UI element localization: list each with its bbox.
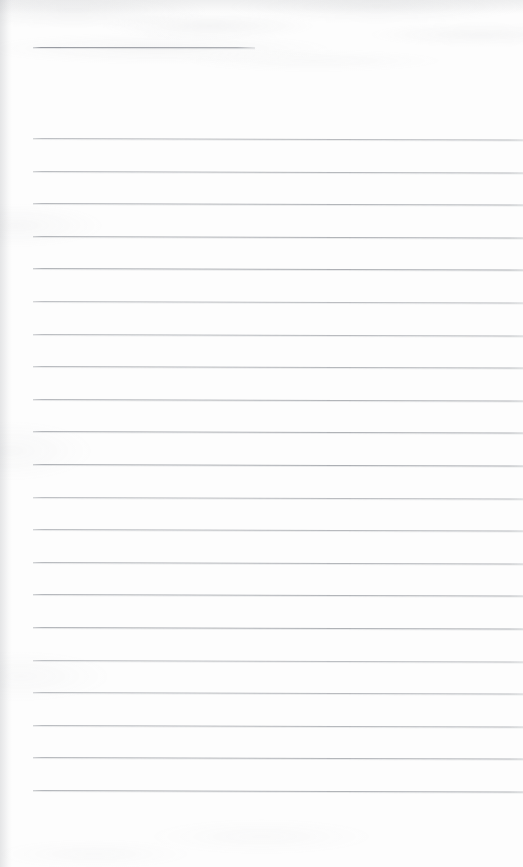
scanned-page (0, 0, 523, 867)
paper-background (0, 0, 523, 867)
